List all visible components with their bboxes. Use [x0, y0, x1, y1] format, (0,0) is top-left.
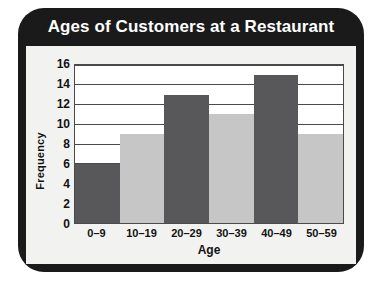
y-axis-tick-1: 2 — [63, 198, 70, 210]
bar-10–19 — [120, 134, 165, 223]
y-axis-tick-2: 4 — [63, 178, 70, 190]
bar-50–59 — [298, 134, 343, 223]
bar-40–49 — [254, 75, 299, 223]
y-axis-tick-5: 10 — [57, 118, 70, 130]
x-axis-tick-3: 30–39 — [209, 227, 254, 239]
y-axis-tick-6: 12 — [57, 98, 70, 110]
x-axis-tick-2: 20–29 — [164, 227, 209, 239]
bar-series — [75, 65, 343, 223]
chart-card: Ages of Customers at a Restaurant Freque… — [18, 8, 364, 272]
chart-title-band: Ages of Customers at a Restaurant — [18, 8, 364, 46]
plot-area — [74, 64, 344, 224]
x-axis-title: Age — [74, 243, 344, 257]
bar-30–39 — [209, 114, 254, 223]
bar-20–29 — [164, 95, 209, 223]
y-axis-tick-0: 0 — [63, 218, 70, 230]
y-axis-tick-7: 14 — [57, 78, 70, 90]
y-axis-title-text: Frequency — [34, 132, 46, 189]
x-axis-tick-0: 0–9 — [74, 227, 119, 239]
x-axis-tick-labels: 0–910–1920–2930–3940–4950–59 — [74, 227, 344, 239]
page-title: Ages of Customers at a Restaurant — [48, 17, 335, 37]
chart-panel: Frequency 0246810121416 0–910–1920–2930–… — [26, 46, 356, 264]
y-axis-tick-8: 16 — [57, 58, 70, 70]
bar-0–9 — [75, 164, 120, 223]
y-axis-tick-4: 8 — [63, 138, 70, 150]
x-axis-tick-4: 40–49 — [254, 227, 299, 239]
y-axis-tick-labels: 0246810121416 — [46, 64, 70, 224]
x-axis-tick-1: 10–19 — [119, 227, 164, 239]
x-axis-tick-5: 50–59 — [299, 227, 344, 239]
y-axis-tick-3: 6 — [63, 158, 70, 170]
